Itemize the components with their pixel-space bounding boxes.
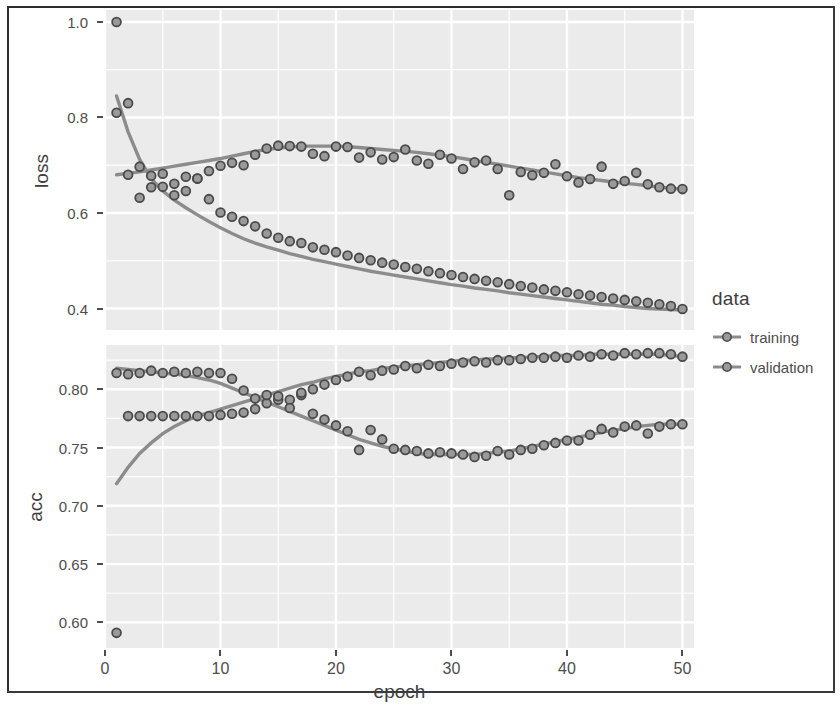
legend: data training validation <box>712 288 832 382</box>
legend-label-training: training <box>750 329 799 346</box>
legend-title: data <box>712 288 832 310</box>
x-tick-mark-2 <box>335 650 337 656</box>
x-tick-label-3: 30 <box>443 660 461 678</box>
y-tick-mark-acc-3 <box>97 447 103 449</box>
panel-acc <box>105 345 694 648</box>
x-tick-label-0: 0 <box>101 660 110 678</box>
legend-key-training <box>712 322 742 352</box>
x-axis-title: epoch <box>105 681 694 703</box>
legend-item-training[interactable]: training <box>712 322 832 352</box>
y-tick-label-loss-3: 1.0 <box>0 13 88 30</box>
legend-item-validation[interactable]: validation <box>712 352 832 382</box>
panel-loss-canvas <box>105 10 694 330</box>
y-tick-label-acc-3: 0.75 <box>0 439 88 456</box>
y-axis-title-acc: acc <box>25 457 47 557</box>
panel-acc-canvas <box>105 345 694 648</box>
y-tick-label-acc-0: 0.60 <box>0 614 88 631</box>
x-tick-label-5: 50 <box>674 660 692 678</box>
y-tick-mark-acc-0 <box>97 621 103 623</box>
x-tick-mark-0 <box>104 650 106 656</box>
x-tick-mark-4 <box>566 650 568 656</box>
y-tick-mark-loss-2 <box>97 116 103 118</box>
y-tick-mark-acc-1 <box>97 563 103 565</box>
chart-figure: 0.40.60.81.0 0.600.650.700.750.80 010203… <box>0 0 840 705</box>
x-tick-label-4: 40 <box>558 660 576 678</box>
y-tick-mark-acc-4 <box>97 388 103 390</box>
y-tick-label-acc-1: 0.65 <box>0 556 88 573</box>
legend-key-validation <box>712 352 742 382</box>
panel-loss <box>105 10 694 330</box>
x-tick-label-1: 10 <box>212 660 230 678</box>
y-tick-mark-loss-1 <box>97 212 103 214</box>
y-tick-label-loss-0: 0.4 <box>0 300 88 317</box>
x-tick-label-2: 20 <box>327 660 345 678</box>
y-tick-mark-loss-0 <box>97 308 103 310</box>
x-tick-mark-1 <box>219 650 221 656</box>
legend-label-validation: validation <box>750 359 813 376</box>
y-tick-mark-acc-2 <box>97 505 103 507</box>
y-tick-mark-loss-3 <box>97 21 103 23</box>
y-tick-label-acc-4: 0.80 <box>0 381 88 398</box>
x-tick-mark-3 <box>450 650 452 656</box>
y-axis-title-loss: loss <box>31 121 53 221</box>
x-tick-mark-5 <box>681 650 683 656</box>
